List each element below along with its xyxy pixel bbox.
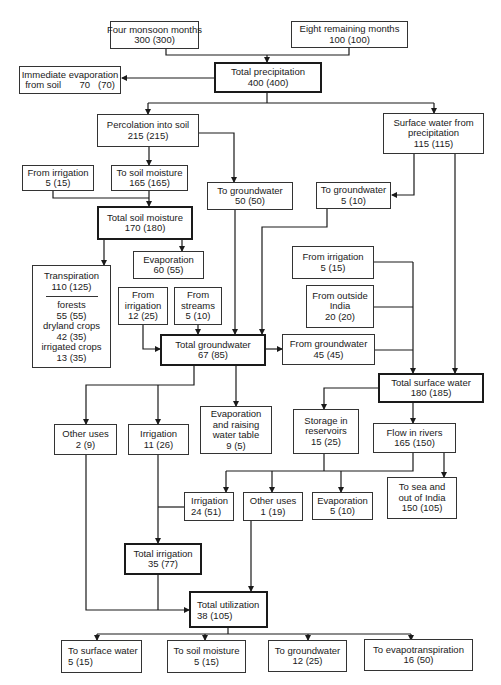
node-label-line3: water table bbox=[213, 430, 259, 441]
node-label: From irrigation bbox=[302, 252, 363, 263]
node-value: 150 (105) bbox=[402, 503, 443, 514]
transpiration-item-value: 13 (35) bbox=[56, 353, 86, 364]
node-eight-remaining-months: Eight remaining months 100 (100) bbox=[291, 21, 408, 48]
node-value: 165 (150) bbox=[394, 438, 435, 449]
node-value: 38 (105) bbox=[197, 611, 232, 622]
node-from-irrigation-groundwater: From irrigation 12 (25) bbox=[118, 287, 168, 325]
node-other-uses-surface: Other uses 1 (19) bbox=[243, 492, 303, 521]
node-label: Eight remaining months bbox=[300, 24, 400, 35]
node-surface-water-from-precipitation: Surface water from precipitation 115 (11… bbox=[383, 113, 484, 154]
node-irrigation-surface: Irrigation 24 (51) bbox=[184, 492, 234, 521]
node-to-soil-moisture: To soil moisture 165 (165) bbox=[111, 165, 188, 191]
node-total-utilization: Total utilization 38 (105) bbox=[189, 591, 268, 628]
node-label: Total utilization bbox=[197, 600, 259, 611]
node-to-groundwater-from-percolation: To groundwater 50 (50) bbox=[207, 182, 293, 210]
node-value: 300 (300) bbox=[134, 35, 175, 46]
node-value: 12 (25) bbox=[292, 656, 322, 667]
node-value: 215 (215) bbox=[128, 131, 169, 142]
node-value: 5 (15) bbox=[68, 657, 93, 668]
node-storage-in-reservoirs: Storage in reservoirs 15 (25) bbox=[293, 409, 359, 454]
node-label: Irrigation bbox=[191, 496, 228, 507]
node-value: 5 (15) bbox=[46, 178, 71, 189]
node-value: 5 (10) bbox=[330, 506, 355, 517]
node-to-soil-moisture-output: To soil moisture 5 (15) bbox=[167, 640, 246, 673]
node-value: 170 (180) bbox=[125, 223, 166, 234]
node-value: 115 (115) bbox=[414, 139, 453, 150]
node-value: 35 (77) bbox=[148, 559, 178, 570]
node-to-sea-out-of-india: To sea and out of India 150 (105) bbox=[387, 477, 457, 519]
node-total-irrigation: Total irrigation 35 (77) bbox=[124, 543, 202, 575]
node-evaporation-raising-water-table: Evaporation and raising water table 9 (5… bbox=[200, 406, 272, 454]
node-value: 5 (10) bbox=[186, 311, 211, 322]
node-value: 165 (165) bbox=[129, 178, 170, 189]
node-label: Irrigation bbox=[140, 429, 177, 440]
node-value: 110 (125) bbox=[52, 282, 92, 293]
node-to-evapotranspiration: To evapotranspiration 16 (50) bbox=[364, 639, 473, 671]
node-label: From groundwater bbox=[290, 339, 368, 350]
node-label: Total precipitation bbox=[231, 67, 305, 78]
node-to-surface-water: To surface water 5 (15) bbox=[61, 640, 142, 673]
node-from-irrigation-soil: From irrigation 5 (15) bbox=[22, 165, 94, 191]
node-value: 2 (9) bbox=[76, 440, 96, 451]
node-value: 400 (400) bbox=[248, 78, 289, 89]
node-total-precipitation: Total precipitation 400 (400) bbox=[214, 62, 322, 93]
divider bbox=[46, 296, 98, 297]
node-label: Other uses bbox=[250, 496, 296, 507]
node-value: 1 (19) bbox=[261, 507, 286, 518]
node-value: 45 (45) bbox=[313, 350, 343, 361]
node-value: 20 (20) bbox=[325, 312, 355, 323]
node-total-soil-moisture: Total soil moisture 170 (180) bbox=[97, 206, 193, 240]
node-value: 5 (15) bbox=[194, 657, 219, 668]
node-value: 5 (15) bbox=[321, 263, 346, 274]
node-value: 50 (50) bbox=[235, 196, 265, 207]
node-from-outside-india: From outside India 20 (20) bbox=[306, 285, 374, 328]
node-label: Percolation into soil bbox=[107, 120, 189, 131]
node-value: 100 (100) bbox=[329, 35, 370, 46]
node-total-groundwater: Total groundwater 67 (85) bbox=[160, 334, 266, 366]
node-from-groundwater: From groundwater 45 (45) bbox=[282, 334, 375, 365]
node-percolation-into-soil: Percolation into soil 215 (215) bbox=[97, 114, 199, 147]
node-value: 15 (25) bbox=[311, 437, 341, 448]
node-value: 180 (185) bbox=[411, 388, 452, 399]
node-label: To soil moisture bbox=[174, 646, 240, 657]
transpiration-item-label: irrigated crops bbox=[41, 342, 101, 353]
node-immediate-evaporation: Immediate evaporation from soil 70 (70) bbox=[19, 66, 121, 94]
node-value: 67 (85) bbox=[198, 350, 228, 361]
node-value: 24 (51) bbox=[191, 507, 221, 518]
node-label: To groundwater bbox=[321, 185, 386, 196]
node-from-irrigation-surface: From irrigation 5 (15) bbox=[292, 246, 374, 279]
node-value: 12 (25) bbox=[128, 311, 158, 322]
node-label: Transpiration bbox=[44, 271, 99, 282]
transpiration-item-label: forests bbox=[57, 300, 86, 311]
node-total-surface-water: Total surface water 180 (185) bbox=[378, 373, 484, 403]
node-value: 11 (26) bbox=[144, 440, 173, 451]
node-to-groundwater-from-surface: To groundwater 5 (10) bbox=[316, 182, 391, 209]
node-irrigation-groundwater: Irrigation 11 (26) bbox=[128, 424, 189, 455]
node-label: To surface water bbox=[68, 646, 138, 657]
transpiration-item-label: dryland crops bbox=[43, 321, 100, 332]
node-flow-in-rivers: Flow in rivers 165 (150) bbox=[373, 423, 456, 453]
node-other-uses-groundwater: Other uses 2 (9) bbox=[54, 424, 117, 455]
node-evaporation-soil: Evaporation 60 (55) bbox=[133, 251, 204, 279]
node-value: 5 (10) bbox=[341, 196, 366, 207]
node-value: 60 (55) bbox=[153, 265, 183, 276]
node-label: Other uses bbox=[62, 429, 108, 440]
node-to-groundwater-output: To groundwater 12 (25) bbox=[268, 640, 347, 672]
node-value: 9 (5) bbox=[226, 441, 246, 452]
node-value: from soil 70 (70) bbox=[25, 80, 115, 91]
node-evaporation-surface: Evaporation 5 (10) bbox=[312, 492, 373, 520]
node-transpiration: Transpiration 110 (125) forests 55 (55) … bbox=[32, 265, 111, 368]
node-label: Evaporation bbox=[211, 409, 262, 420]
node-value: 16 (50) bbox=[403, 655, 433, 666]
node-four-monsoon-months: Four monsoon months 300 (300) bbox=[110, 21, 199, 49]
node-from-streams: From streams 5 (10) bbox=[174, 287, 222, 325]
